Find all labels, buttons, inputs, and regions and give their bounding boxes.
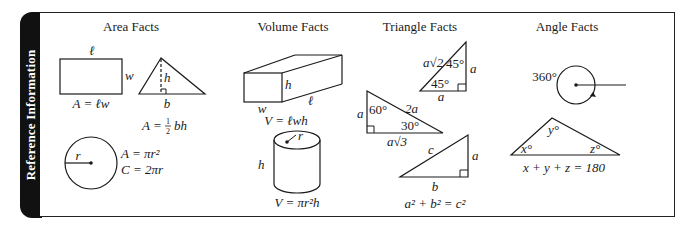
triangle-height-label: h [164,70,171,85]
circle-area-formula: A = πr² [120,146,161,161]
short-leg-a-label: a [357,106,364,121]
reference-diagrams: Area Facts Volume Facts Triangle Facts A… [0,0,678,228]
leg-b-label: b [432,179,439,194]
volume-facts-title: Volume Facts [258,19,329,34]
rectangle-length-label: ℓ [89,43,95,58]
box-volume-formula: V = ℓwh [264,113,308,128]
full-rotation-diagram [557,66,626,104]
circle-radius-label: r [75,148,81,163]
cylinder-radius-label: r [298,128,304,143]
svg-text:A =: A = [141,118,162,133]
angle-x-label: x° [520,141,532,156]
triangle-facts-title: Triangle Facts [383,19,457,34]
triangle-shape [139,58,205,94]
angle-30-label: 30° [401,118,419,133]
vertical-leg-a-label: a [470,61,477,76]
rectangular-prism-shape [244,55,342,102]
leg-a-label: a [472,148,479,163]
area-facts-title: Area Facts [103,19,159,34]
angle-60-label: 60° [369,102,387,117]
long-leg-a-root3-label: a√3 [387,134,408,149]
top-45-angle-label: 45° [446,56,464,71]
hypotenuse-2a-label: 2a [405,101,419,116]
hypotenuse-c-label: c [428,142,434,157]
triangle-base-label: b [164,96,171,111]
box-length-label: ℓ [308,93,314,108]
box-height-label: h [285,77,292,92]
angle-sum-formula: x + y + z = 180 [522,160,605,175]
circle-circumference-formula: C = 2πr [121,162,164,177]
rectangle-shape [60,59,122,94]
cylinder-height-label: h [258,157,265,172]
360-degree-label: 360° [532,69,557,84]
svg-text:bh: bh [174,118,187,133]
pythagorean-formula: a² + b² = c² [404,196,466,211]
pythagorean-right-triangle [400,135,468,177]
angle-z-label: z° [589,141,600,156]
right-angle-mark [161,89,166,94]
rectangle-area-formula: A = ℓw [71,96,109,111]
svg-text:2: 2 [166,127,170,136]
angle-facts-title: Angle Facts [536,19,598,34]
svg-text:1: 1 [166,117,170,126]
horizontal-leg-a-label: a [438,89,445,104]
rectangle-width-label: w [125,68,134,83]
cylinder-volume-formula: V = πr²h [275,195,320,210]
triangle-area-formula: A = 1 2 bh [141,117,187,136]
cylinder-shape [274,131,320,193]
angle-y-label: y° [546,122,559,137]
hypotenuse-a-root2-label: a√2 [423,55,444,70]
